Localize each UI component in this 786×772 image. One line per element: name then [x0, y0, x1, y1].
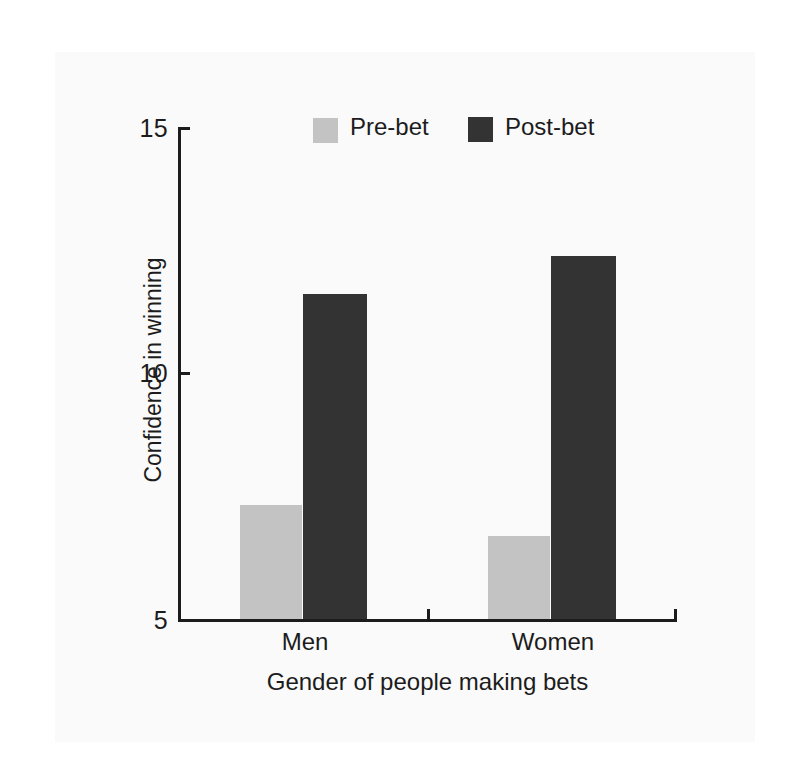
y-tick-label-5: 5 — [98, 606, 168, 635]
bar-women-pre-bet — [488, 536, 550, 619]
legend-swatch-post-bet — [468, 117, 493, 142]
y-tick-5 — [178, 619, 190, 622]
legend-label-post-bet: Post-bet — [505, 113, 594, 141]
figure-canvas: 15 10 5 Confidence in winning Men Women … — [0, 0, 786, 772]
x-axis-title: Gender of people making bets — [178, 668, 677, 696]
bar-women-post-bet — [551, 256, 616, 619]
y-tick-10 — [178, 372, 190, 375]
x-tick-divider — [427, 609, 430, 620]
legend-swatch-pre-bet — [313, 118, 338, 143]
bar-men-pre-bet — [240, 505, 302, 619]
legend-label-pre-bet: Pre-bet — [350, 113, 429, 141]
y-tick-15 — [178, 127, 190, 130]
bar-men-post-bet — [303, 294, 367, 619]
bar-chart-plot: 15 10 5 Confidence in winning Men Women … — [0, 0, 786, 772]
y-axis-title: Confidence in winning — [140, 220, 167, 520]
x-tick-end — [674, 609, 677, 620]
x-category-label-women: Women — [490, 628, 616, 656]
x-category-label-men: Men — [243, 628, 367, 656]
y-tick-label-15: 15 — [98, 114, 168, 143]
